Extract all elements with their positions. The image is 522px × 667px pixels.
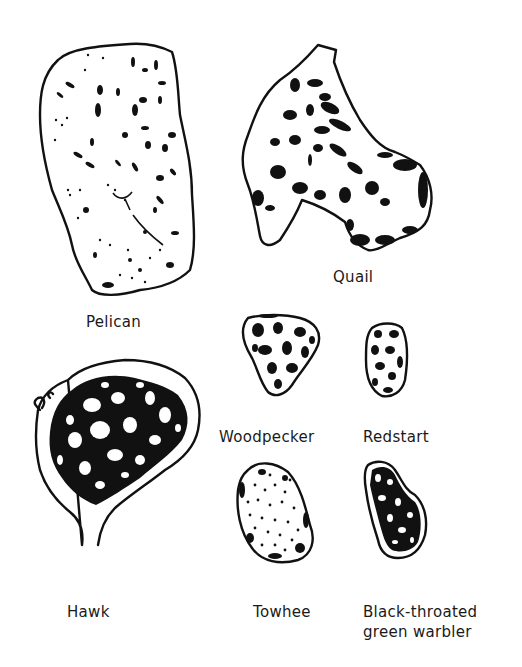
figure-canvas: Pelican Quail Woodpecker Redstart Hawk T… <box>0 0 522 667</box>
redstart-drawing <box>366 324 407 397</box>
towhee-drawing <box>238 463 313 562</box>
towhee-label: Towhee <box>253 603 311 622</box>
quail-label: Quail <box>333 268 373 287</box>
pelican-drawing <box>40 44 194 295</box>
specimen-drawings <box>0 0 522 667</box>
warbler-drawing <box>365 462 426 558</box>
woodpecker-drawing <box>243 314 319 395</box>
hawk-drawing <box>35 360 200 545</box>
hawk-label: Hawk <box>67 603 110 622</box>
woodpecker-label: Woodpecker <box>219 428 314 447</box>
warbler-label-line2: green warbler <box>363 623 472 642</box>
pelican-label: Pelican <box>86 313 141 332</box>
warbler-label-line1: Black-throated <box>363 603 477 622</box>
quail-drawing <box>243 45 432 250</box>
redstart-label: Redstart <box>363 428 429 447</box>
